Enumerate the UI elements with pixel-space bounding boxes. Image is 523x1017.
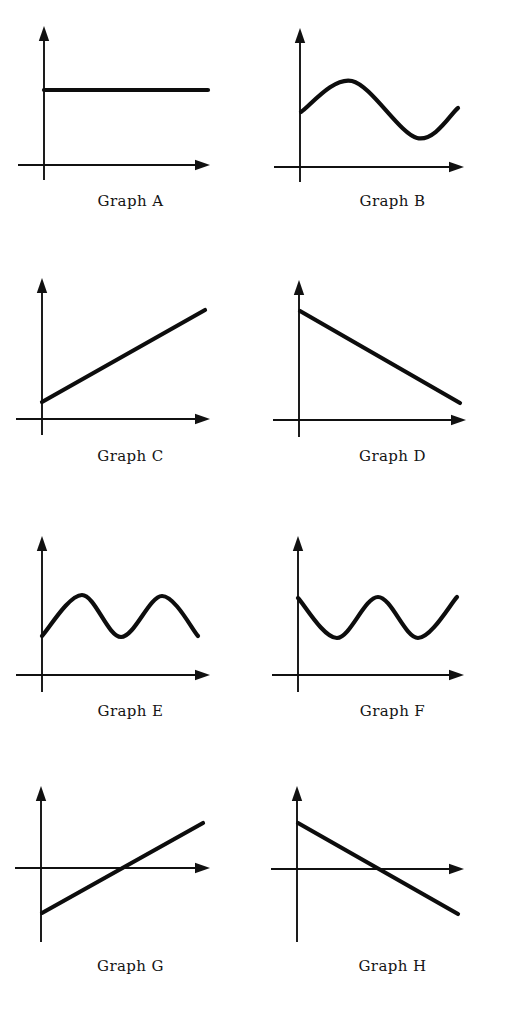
graph-panel-f: Graph F	[262, 510, 523, 765]
curve-graph-c	[42, 310, 205, 402]
y-axis-arrowhead-icon	[292, 786, 302, 801]
x-axis-arrowhead-icon	[195, 414, 210, 424]
axes-and-curve-graph-e	[0, 510, 261, 710]
axes-and-curve-graph-g	[0, 762, 261, 962]
graph-panel-c: Graph C	[0, 255, 261, 510]
graph-panel-a: Graph A	[0, 0, 261, 255]
x-axis-arrowhead-icon	[449, 162, 464, 172]
graph-panel-e: Graph E	[0, 510, 261, 765]
graph-panel-g: Graph G	[0, 762, 261, 1017]
axes-and-curve-graph-a	[0, 0, 261, 200]
y-axis-arrowhead-icon	[37, 536, 47, 551]
x-axis-arrowhead-icon	[451, 415, 466, 425]
y-axis-arrowhead-icon	[36, 786, 46, 801]
y-axis-arrowhead-icon	[294, 280, 304, 295]
x-axis-arrowhead-icon	[449, 864, 464, 874]
axes-and-curve-graph-f	[262, 510, 523, 710]
axes-and-curve-graph-b	[262, 0, 523, 200]
x-axis-arrowhead-icon	[195, 670, 210, 680]
graph-panel-h: Graph H	[262, 762, 523, 1017]
curve-graph-d	[300, 311, 460, 403]
axes-and-curve-graph-h	[262, 762, 523, 962]
x-axis-arrowhead-icon	[195, 863, 210, 873]
panel-caption: Graph F	[262, 702, 523, 720]
graph-panel-b: Graph B	[262, 0, 523, 255]
panel-caption: Graph C	[0, 447, 261, 465]
graph-panel-d: Graph D	[262, 255, 523, 510]
graph-figure-sheet: Graph AGraph BGraph CGraph DGraph EGraph…	[0, 0, 523, 1017]
y-axis-arrowhead-icon	[37, 278, 47, 293]
axes-and-curve-graph-c	[0, 255, 261, 455]
x-axis-arrowhead-icon	[195, 160, 210, 170]
x-axis-arrowhead-icon	[449, 670, 464, 680]
panel-caption: Graph E	[0, 702, 261, 720]
curve-graph-b	[301, 81, 458, 139]
axes-and-curve-graph-d	[262, 255, 523, 455]
panel-caption: Graph D	[262, 447, 523, 465]
y-axis-arrowhead-icon	[293, 536, 303, 551]
y-axis-arrowhead-icon	[39, 26, 49, 41]
panel-caption: Graph G	[0, 957, 261, 975]
panel-caption: Graph B	[262, 192, 523, 210]
panel-caption: Graph A	[0, 192, 261, 210]
panel-caption: Graph H	[262, 957, 523, 975]
y-axis-arrowhead-icon	[295, 28, 305, 43]
curve-graph-f	[298, 597, 457, 638]
curve-graph-e	[42, 595, 198, 637]
